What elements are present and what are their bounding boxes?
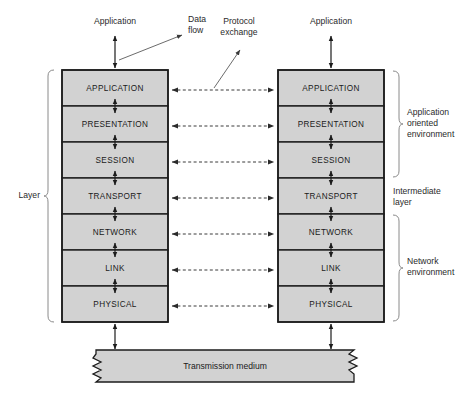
right-layer-label-presentation: PRESENTATION xyxy=(298,120,365,129)
transmission-medium[interactable]: Transmission medium xyxy=(93,350,357,382)
data-flow-label-line1: Data xyxy=(188,14,206,24)
left-layer-label-transport: TRANSPORT xyxy=(88,192,142,201)
right-layer-label-physical: PHYSICAL xyxy=(309,300,352,309)
left-layer-label-physical: PHYSICAL xyxy=(93,300,136,309)
left-application-label: Application xyxy=(94,16,136,26)
protocol-exchange-label-line2: exchange xyxy=(220,27,257,37)
diagram-canvas: APPLICATION PRESENTATION SESSION TRANSPO… xyxy=(0,0,472,400)
left-layer-label-application: APPLICATION xyxy=(86,84,143,93)
environment-brackets-group: Application oriented environment Interme… xyxy=(393,71,455,321)
data-flow-label-line2: flow xyxy=(188,25,204,35)
right-protocol-stack: APPLICATION PRESENTATION SESSION TRANSPO… xyxy=(278,16,384,349)
right-layer-label-transport: TRANSPORT xyxy=(304,192,358,201)
right-layer-label-application: APPLICATION xyxy=(302,84,359,93)
environment-label-application-line2: oriented xyxy=(407,118,438,128)
protocol-exchange-callout: Protocol exchange xyxy=(214,16,258,88)
environment-label-intermediate-line2: layer xyxy=(393,197,412,207)
transmission-medium-label: Transmission medium xyxy=(183,361,267,371)
left-protocol-stack: APPLICATION PRESENTATION SESSION TRANSPO… xyxy=(62,16,168,349)
environment-label-application-line3: environment xyxy=(407,129,455,139)
osi-model-diagram: APPLICATION PRESENTATION SESSION TRANSPO… xyxy=(0,0,472,400)
layer-bracket-label: Layer xyxy=(19,190,41,200)
protocol-exchange-arrows xyxy=(172,90,274,306)
protocol-exchange-leader-line xyxy=(214,50,240,88)
left-layer-label-link: LINK xyxy=(105,264,125,273)
left-layer-label-presentation: PRESENTATION xyxy=(82,120,149,129)
right-layer-label-network: NETWORK xyxy=(309,228,353,237)
right-layer-label-session: SESSION xyxy=(312,156,351,165)
environment-label-network-line2: environment xyxy=(407,267,455,277)
bracket-network-environment xyxy=(393,215,403,321)
data-flow-leader-line xyxy=(119,35,182,60)
bracket-application-environment xyxy=(393,71,403,177)
right-layer-label-link: LINK xyxy=(321,264,341,273)
layer-bracket xyxy=(44,70,54,322)
left-layer-label-session: SESSION xyxy=(96,156,135,165)
left-layer-label-network: NETWORK xyxy=(93,228,137,237)
environment-label-intermediate-line1: Intermediate xyxy=(393,186,441,196)
right-application-label: Application xyxy=(310,16,352,26)
layer-bracket-group: Layer xyxy=(19,70,55,322)
protocol-exchange-label-line1: Protocol xyxy=(223,16,255,26)
environment-label-application-line1: Application xyxy=(407,107,449,117)
environment-label-network-line1: Network xyxy=(407,256,439,266)
